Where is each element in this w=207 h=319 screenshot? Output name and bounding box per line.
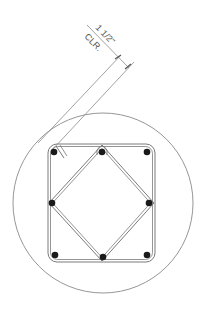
bar-bottom-left	[52, 252, 59, 259]
bar-bottom-middle	[100, 254, 107, 261]
bar-top-left	[51, 149, 58, 156]
bar-middle-left	[49, 200, 56, 207]
column-section-drawing: 1 1/2" CLR.	[0, 0, 207, 319]
column-outline-circle	[13, 113, 193, 293]
bar-top-right	[144, 149, 151, 156]
diamond-tie-outer	[49, 145, 154, 261]
extension-line-inner	[53, 62, 134, 149]
bar-bottom-right	[144, 252, 151, 259]
perimeter-tie-outer	[48, 144, 155, 262]
longitudinal-bars	[49, 149, 153, 261]
perimeter-tie-inner	[51, 147, 153, 260]
bar-top-middle	[99, 149, 106, 156]
extension-line-outer	[38, 55, 121, 143]
bar-middle-right	[146, 200, 153, 207]
diamond-tie-inner	[53, 149, 151, 258]
